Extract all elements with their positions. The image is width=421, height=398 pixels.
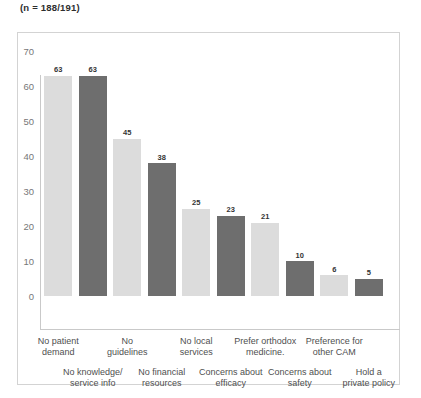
y-axis-tick-label: 10: [23, 256, 34, 267]
sample-size-note: (n = 188/191): [20, 2, 80, 13]
chart-frame: 010203040506070 636345382523211065 No pa…: [17, 32, 400, 385]
bar-slot: 5: [355, 51, 383, 296]
x-axis-category-label: Concerns about safety: [260, 367, 340, 389]
bar[interactable]: [44, 76, 72, 297]
bar-slot: 45: [113, 51, 141, 296]
bar-slot: 6: [320, 51, 348, 296]
bar-slot: 21: [251, 51, 279, 296]
bar-value-label: 63: [44, 66, 72, 74]
bar-slot: 38: [148, 51, 176, 296]
x-axis-category-label: No financial resources: [122, 367, 202, 389]
bar-value-label: 5: [355, 269, 383, 277]
y-axis-tick-label: 20: [23, 221, 34, 232]
bar[interactable]: [320, 275, 348, 296]
y-axis-tick-label: 30: [23, 186, 34, 197]
x-axis-category-label: No guidelines: [87, 336, 167, 358]
y-axis-tick-label: 70: [23, 46, 34, 57]
bar-value-label: 23: [217, 206, 245, 214]
bar-value-label: 45: [113, 129, 141, 137]
x-axis-category-label: No patient demand: [18, 336, 98, 358]
y-axis-tick-label: 0: [29, 291, 34, 302]
x-axis-category-label: Prefer orthodox medicine.: [225, 336, 305, 358]
bar-value-label: 6: [320, 266, 348, 274]
x-axis-line: [40, 329, 400, 330]
bar[interactable]: [355, 279, 383, 297]
x-axis-category-label: Hold a private policy: [329, 367, 409, 389]
bar-slot: 63: [44, 51, 72, 296]
bar[interactable]: [286, 261, 314, 296]
y-axis-tick-label: 40: [23, 151, 34, 162]
y-axis-tick-label: 60: [23, 81, 34, 92]
bar[interactable]: [79, 76, 107, 297]
y-axis-tick-label: 50: [23, 116, 34, 127]
bar-value-label: 38: [148, 154, 176, 162]
bar-slot: 63: [79, 51, 107, 296]
bar-value-label: 21: [251, 213, 279, 221]
bar[interactable]: [148, 163, 176, 296]
x-axis-category-label: No knowledge/ service info: [53, 367, 133, 389]
x-axis-category-label: Preference for other CAM: [294, 336, 374, 358]
bar-slot: 23: [217, 51, 245, 296]
x-axis-category-label: No local services: [156, 336, 236, 358]
plot-area: 010203040506070 636345382523211065: [41, 51, 386, 296]
bar-value-label: 10: [286, 252, 314, 260]
bar-value-label: 63: [79, 66, 107, 74]
bar[interactable]: [113, 139, 141, 297]
bar[interactable]: [217, 216, 245, 297]
bar[interactable]: [182, 209, 210, 297]
x-axis-category-label: Concerns about efficacy: [191, 367, 271, 389]
bar[interactable]: [251, 223, 279, 297]
bar-value-label: 25: [182, 199, 210, 207]
bar-slot: 10: [286, 51, 314, 296]
bar-slot: 25: [182, 51, 210, 296]
